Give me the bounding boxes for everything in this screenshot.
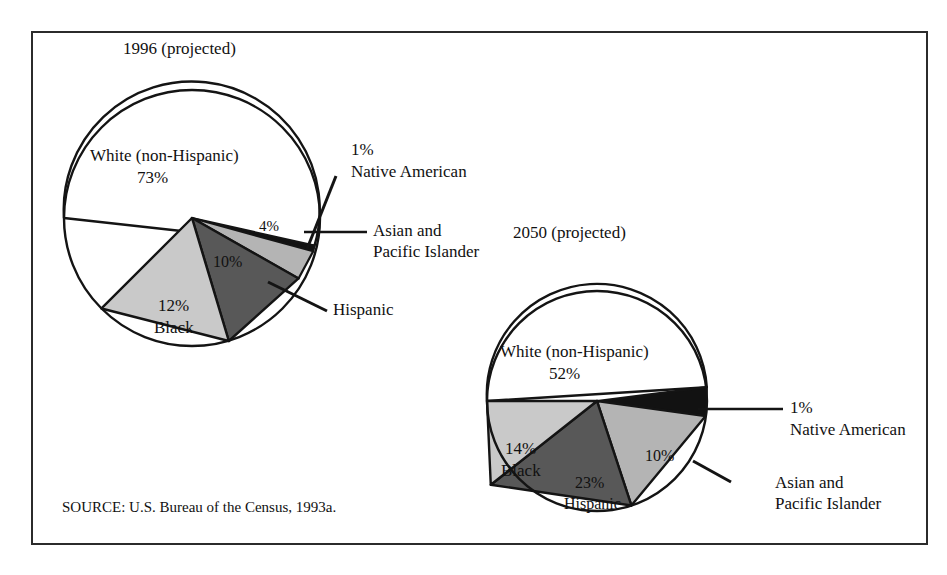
pie2-label-black-name: Black	[501, 461, 541, 480]
pie2-label-asian-name-line1: Asian and	[775, 473, 843, 492]
pie2-label-white-name: White (non-Hispanic)	[500, 342, 649, 361]
pie1-title: 1996 (projected)	[123, 39, 236, 58]
pie2-label-hispanic-value: 23%	[575, 474, 604, 492]
pie1-label-black-value: 12%	[158, 296, 189, 315]
pie2-label-native-name: Native American	[790, 420, 906, 439]
figure-frame: 1996 (projected) White (non-Hispanic) 73…	[31, 31, 928, 545]
pie2-title: 2050 (projected)	[513, 223, 626, 242]
pie1-label-white-value: 73%	[137, 168, 168, 187]
pie2-leader-asian-pacific	[693, 461, 731, 482]
pie2-label-native-value: 1%	[790, 398, 813, 417]
pie1-label-black-name: Black	[154, 318, 194, 337]
pie2-label-asian-name-line2: Pacific Islander	[775, 494, 881, 513]
pie2-label-hispanic-name: Hispanic	[564, 495, 621, 513]
pie1-label-native-name: Native American	[351, 162, 467, 181]
source-note: SOURCE: U.S. Bureau of the Census, 1993a…	[62, 499, 336, 516]
pie2-label-white-value: 52%	[549, 364, 580, 383]
pie2-label-asian-value: 10%	[645, 447, 674, 465]
pie1-label-asian-value: 4%	[259, 218, 279, 235]
pie2-label-black-value: 14%	[505, 439, 536, 458]
pie1-label-asian-name-line1: Asian and	[373, 221, 441, 240]
pie1-label-white-name: White (non-Hispanic)	[90, 146, 239, 165]
pie1-label-hispanic-value: 10%	[213, 253, 242, 271]
pie1-label-native-value: 1%	[351, 140, 374, 159]
pie1-label-asian-name-line2: Pacific Islander	[373, 242, 479, 261]
pie1-label-hispanic-name: Hispanic	[333, 300, 393, 319]
pie-chart-canvas	[33, 33, 930, 547]
